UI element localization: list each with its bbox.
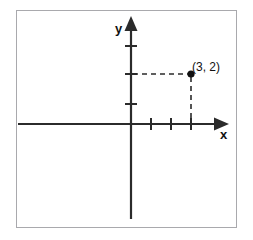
y-axis-arrowhead-icon (125, 16, 138, 31)
point-coordinate-label: (3, 2) (192, 61, 220, 73)
coordinate-plane-graphic (17, 11, 236, 227)
y-axis-label: y (115, 22, 122, 35)
x-axis-label: x (220, 128, 227, 141)
point-guide-lines (133, 74, 191, 122)
x-axis (18, 118, 229, 131)
plot-area: y x (3, 2) (17, 11, 236, 227)
figure-frame: y x (3, 2) (16, 10, 237, 228)
